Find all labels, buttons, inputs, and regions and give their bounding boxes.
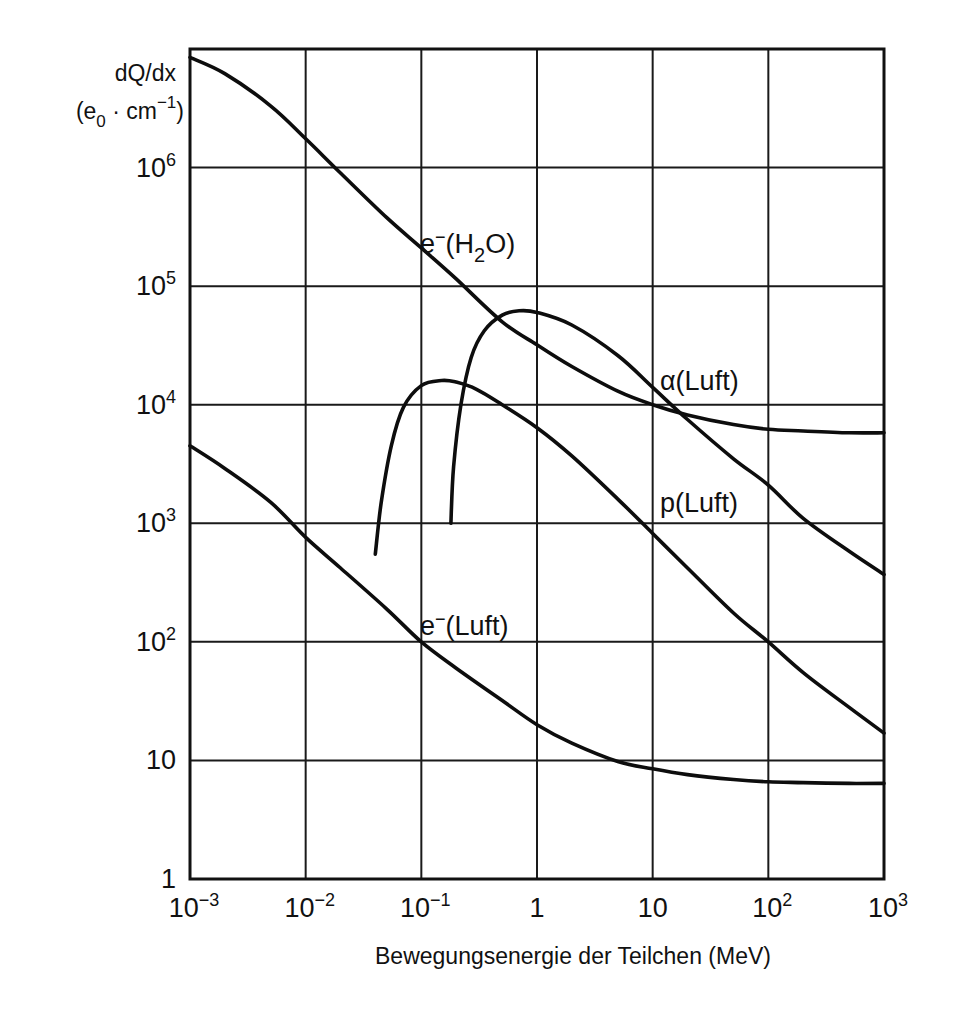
x-tick-label: 103: [868, 890, 908, 923]
y-tick-label: 1: [161, 864, 176, 894]
x-tick-label: 1: [529, 893, 544, 923]
curve-label: α(Luft): [660, 366, 739, 396]
x-tick-label: 10−2: [284, 890, 335, 923]
x-tick-label: 102: [752, 890, 792, 923]
x-axis-ticks: 10−310−210−1110102103: [169, 890, 908, 923]
curve-label: e−(Luft): [420, 609, 509, 641]
y-axis-title-line2: (e0 · cm−1): [76, 93, 184, 131]
y-tick-label: 103: [136, 505, 176, 538]
x-tick-label: 10: [638, 893, 668, 923]
x-tick-label: 10−1: [400, 890, 451, 923]
y-tick-label: 10: [146, 745, 176, 775]
x-tick-label: 10−3: [169, 890, 220, 923]
y-axis-title-line1: dQ/dx: [115, 60, 177, 86]
curve-label: p(Luft): [660, 488, 738, 518]
x-axis-title: Bewegungsenergie der Teilchen (MeV): [375, 943, 771, 969]
grid: [190, 49, 884, 879]
y-tick-label: 106: [136, 150, 176, 183]
curve-p-luft: [375, 380, 884, 733]
curve-α-luft: [451, 310, 884, 574]
y-tick-label: 105: [136, 268, 176, 301]
y-tick-label: 104: [136, 387, 176, 420]
y-axis-ticks: 110102103104105106: [136, 150, 176, 894]
y-tick-label: 102: [136, 624, 176, 657]
stopping-power-chart: e−(H2O)α(Luft)p(Luft)e−(Luft) 10−310−210…: [0, 0, 963, 1009]
